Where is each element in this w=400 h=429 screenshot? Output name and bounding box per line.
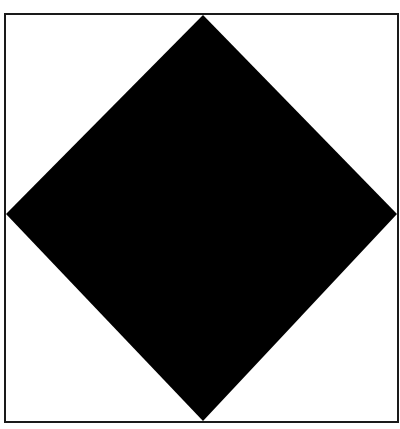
diagram-canvas — [0, 0, 400, 429]
